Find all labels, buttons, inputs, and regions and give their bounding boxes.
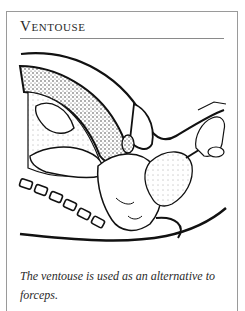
title-divider xyxy=(20,38,224,39)
ventouse-illustration xyxy=(16,48,228,248)
sidebar-title: Ventouse xyxy=(20,16,224,37)
figure-caption: The ventouse is used as an alternative t… xyxy=(20,267,225,305)
